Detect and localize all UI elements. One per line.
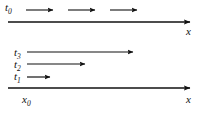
label-x0-subscript: 0: [27, 99, 31, 108]
label-t1-subscript: 1: [17, 76, 21, 85]
label-t0: t0: [5, 2, 12, 16]
top-panel: [8, 10, 190, 22]
label-t1: t1: [14, 71, 21, 85]
label-t0-subscript: 0: [8, 7, 12, 16]
label-x0: x0: [22, 94, 31, 108]
label-x-axis-top: x: [186, 26, 191, 37]
label-x-axis-bottom: x: [186, 94, 191, 105]
physics-displacement-diagram: t0 t3 t2 t1 x0 x x: [0, 0, 203, 113]
bottom-panel: [8, 52, 190, 88]
